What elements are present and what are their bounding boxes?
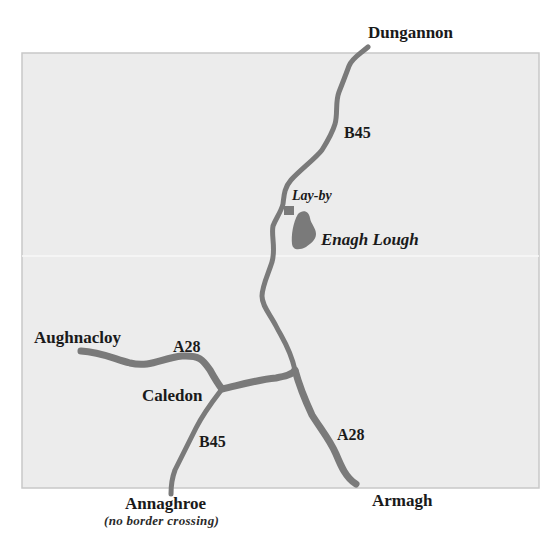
annaghroe-note: (no border crossing) (104, 513, 219, 528)
road-label-a28-south: A28 (337, 426, 365, 443)
town-label-aughnacloy: Aughnacloy (34, 328, 121, 347)
map-frame (22, 53, 539, 488)
road-label-b45-south: B45 (199, 433, 226, 450)
town-label-annaghroe: Annaghroe (125, 494, 206, 513)
road-label-b45-north: B45 (344, 124, 371, 141)
town-label-caledon: Caledon (142, 386, 203, 405)
layby-label: Lay-by (291, 188, 332, 203)
layby-marker (284, 206, 294, 215)
town-label-armagh: Armagh (372, 491, 433, 510)
road-map: Dungannon B45 Lay-by Enagh Lough Aughnac… (0, 0, 554, 544)
lake-label: Enagh Lough (320, 230, 419, 249)
road-label-a28-west: A28 (173, 338, 201, 355)
town-label-dungannon: Dungannon (368, 23, 454, 42)
